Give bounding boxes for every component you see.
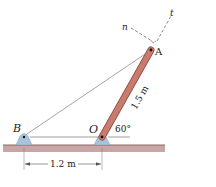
label-t: t — [170, 8, 174, 18]
cable-ab — [24, 50, 151, 136]
support-b — [16, 134, 32, 146]
t-axis — [157, 16, 171, 41]
label-angle: 60° — [115, 124, 131, 134]
pin-a — [150, 49, 153, 52]
pin-b — [23, 136, 25, 138]
right-angle-mark — [151, 40, 156, 43]
dim-arrow-left — [25, 162, 30, 165]
mechanics-diagram: B O A n t 60° 1.2 m 1.5 m — [0, 0, 216, 187]
label-o: O — [89, 123, 98, 136]
pin-o — [101, 136, 104, 139]
label-span: 1.2 m — [50, 159, 76, 169]
label-a: A — [154, 46, 163, 57]
label-n: n — [122, 22, 128, 32]
ground — [3, 145, 165, 152]
dim-arrow-right — [96, 162, 101, 165]
n-axis — [131, 28, 152, 41]
label-b: B — [12, 122, 21, 135]
